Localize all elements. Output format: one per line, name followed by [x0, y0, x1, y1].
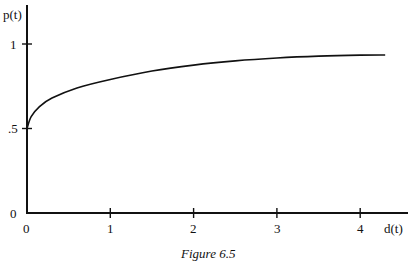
- figure-caption: Figure 6.5: [181, 247, 235, 260]
- y-axis-label: p(t): [3, 8, 22, 21]
- x-tick-label-2: 2: [190, 222, 197, 235]
- y-tick-label-0: 0: [10, 207, 17, 220]
- y-tick-label-1: 1: [10, 38, 17, 51]
- x-tick-label-3: 3: [274, 222, 281, 235]
- x-tick-label-4: 4: [357, 222, 364, 235]
- data-curve: [27, 55, 385, 129]
- x-tick-label-0: 0: [23, 222, 30, 235]
- x-tick-label-1: 1: [107, 222, 114, 235]
- x-axis-label: d(t): [384, 222, 403, 235]
- y-tick-label-half: .5: [8, 122, 18, 135]
